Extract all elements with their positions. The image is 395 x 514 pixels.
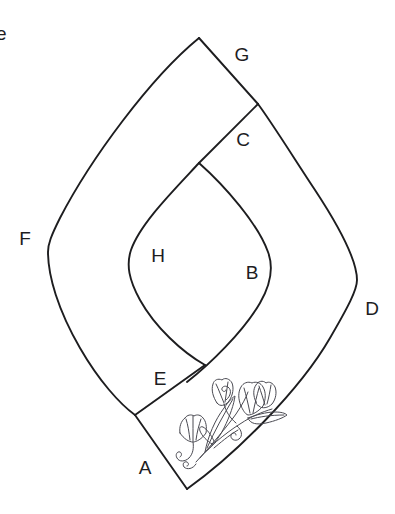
- point-label-B: B: [246, 263, 259, 282]
- inner-left-arc-H: [129, 163, 205, 365]
- floral-sprig-ornament: [176, 379, 287, 469]
- point-label-H: H: [151, 246, 165, 265]
- point-label-G: G: [235, 45, 250, 64]
- outer-right-arc-DC: [187, 104, 357, 489]
- inner-bottom-edge-E: [135, 365, 205, 415]
- geometry-figure-canvas: G C D B H F E A e: [0, 0, 395, 514]
- point-label-F: F: [19, 229, 31, 248]
- point-label-C: C: [236, 130, 250, 149]
- clipped-corner-text: e: [0, 24, 7, 43]
- inner-right-arc-B: [187, 163, 271, 382]
- outer-left-arc-GFA: [48, 38, 199, 415]
- point-label-D: D: [365, 299, 379, 318]
- point-label-E: E: [154, 369, 167, 388]
- figure-vector-layer: [0, 0, 395, 514]
- point-label-A: A: [139, 458, 152, 477]
